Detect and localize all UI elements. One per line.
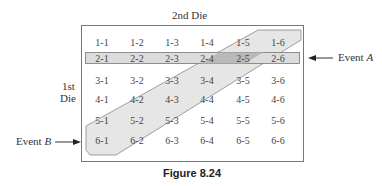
- outcome-cell: 4-6: [263, 94, 293, 106]
- outcome-cell: 5-6: [263, 115, 293, 127]
- outcome-cell: 3-3: [157, 75, 187, 87]
- event-b-arrowhead-icon: [73, 139, 81, 145]
- second-die-label: 2nd Die: [172, 9, 207, 21]
- outcome-cell: 1-1: [87, 37, 117, 49]
- outcome-cell: 5-2: [122, 115, 152, 127]
- outcome-cell: 2-3: [157, 53, 187, 65]
- outcome-cell: 6-5: [228, 135, 258, 147]
- outcome-cell: 4-1: [87, 94, 117, 106]
- outcome-cell: 4-2: [122, 94, 152, 106]
- outcome-cell: 5-4: [192, 115, 222, 127]
- outcome-cell: 3-1: [87, 75, 117, 87]
- outcome-cell: 6-4: [192, 135, 222, 147]
- event-a-arrowhead-icon: [308, 55, 316, 61]
- first-die-label-line2: Die: [60, 92, 76, 104]
- outcome-cell: 2-5: [228, 53, 258, 65]
- outcome-cell: 4-3: [157, 94, 187, 106]
- outcome-cell: 6-1: [87, 135, 117, 147]
- first-die-label-line1: 1st: [62, 80, 75, 92]
- outcome-cell: 1-3: [157, 37, 187, 49]
- event-b-label: Event B: [16, 135, 51, 147]
- figure-caption: Figure 8.24: [163, 167, 221, 179]
- outcome-cell: 2-2: [122, 53, 152, 65]
- outcome-cell: 2-1: [87, 53, 117, 65]
- outcome-cell: 2-4: [192, 53, 222, 65]
- outcome-cell: 5-3: [157, 115, 187, 127]
- outcome-cell: 6-2: [122, 135, 152, 147]
- outcome-cell: 3-2: [122, 75, 152, 87]
- outcome-cell: 3-5: [228, 75, 258, 87]
- diagram-shapes: [0, 0, 382, 186]
- outcome-cell: 6-6: [263, 135, 293, 147]
- outcome-cell: 5-5: [228, 115, 258, 127]
- outcome-cell: 3-4: [192, 75, 222, 87]
- outcome-cell: 6-3: [157, 135, 187, 147]
- outcome-cell: 1-2: [122, 37, 152, 49]
- outcome-cell: 5-1: [87, 115, 117, 127]
- outcome-cell: 2-6: [263, 53, 293, 65]
- outcome-cell: 4-5: [228, 94, 258, 106]
- outcome-cell: 4-4: [192, 94, 222, 106]
- event-a-label: Event A: [338, 51, 373, 63]
- outcome-cell: 3-6: [263, 75, 293, 87]
- outcome-cell: 1-4: [192, 37, 222, 49]
- outcome-cell: 1-5: [228, 37, 258, 49]
- outcome-cell: 1-6: [263, 37, 293, 49]
